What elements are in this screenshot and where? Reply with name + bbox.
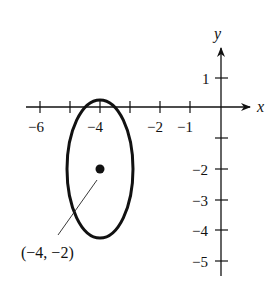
x-axis-label: x (256, 98, 264, 115)
center-point (96, 165, 105, 174)
annotation-leader-line (58, 180, 97, 235)
y-tick-label-1: 1 (202, 71, 210, 87)
center-annotation: (−4, −2) (21, 244, 74, 262)
x-tick-label-neg6: −6 (28, 119, 44, 135)
y-tick-label-neg4: −4 (192, 223, 208, 239)
y-tick-label-neg2: −2 (192, 162, 208, 178)
ellipse-graph: x y −6 −4 −2 −1 1 −2 −3 −4 −5 (−4, −2) (0, 0, 279, 281)
y-tick-label-neg3: −3 (192, 193, 208, 209)
x-tick-label-neg1: −1 (177, 119, 193, 135)
x-tick-label-neg2: −2 (147, 119, 163, 135)
x-tick-label-neg4: −4 (87, 119, 103, 135)
y-tick-label-neg5: −5 (192, 254, 208, 270)
y-axis-label: y (212, 25, 222, 43)
